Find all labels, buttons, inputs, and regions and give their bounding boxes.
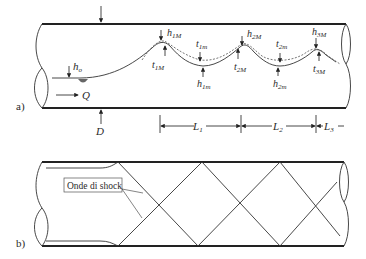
t1m-label: t1m	[196, 38, 207, 51]
dashed-surface-profile	[142, 41, 340, 64]
h2m-label: h2m	[273, 78, 287, 91]
pipe-left-break	[35, 162, 49, 246]
h2M-label: h2M	[247, 28, 263, 41]
free-surface-profile	[52, 42, 336, 78]
L3-label: L3	[323, 120, 334, 134]
panel-b-label: b)	[16, 237, 26, 250]
panel-b: Onde di shock b)	[16, 162, 349, 250]
panel-a: D ho Q a) h1M t1M t1m h1m h2M t2M t2m	[16, 6, 351, 137]
water-shading	[78, 79, 88, 83]
shock-line	[280, 182, 337, 246]
pipe-left-break	[35, 24, 49, 108]
length-dimensions: L1 L2 L3	[160, 115, 344, 134]
panel-a-label: a)	[16, 100, 25, 113]
t2M-label: t2M	[234, 61, 247, 74]
shock-waves	[118, 162, 340, 246]
h1m-label: h1m	[197, 78, 211, 91]
L1-label: L1	[192, 120, 203, 134]
flow-label: Q	[82, 89, 90, 101]
h3M-label: h3M	[312, 26, 328, 39]
h1M-label: h1M	[167, 27, 183, 40]
t2m-label: t2m	[276, 38, 287, 51]
h-o-label: ho	[73, 60, 83, 74]
L2-label: L2	[272, 120, 283, 134]
pipe-right-end	[340, 162, 349, 246]
callout-leader	[122, 189, 142, 218]
shock-label: Onde di shock	[67, 181, 122, 191]
t1M-label: t1M	[152, 59, 165, 72]
t3M-label: t3M	[313, 63, 326, 76]
shock-line	[280, 162, 340, 236]
hydraulic-jump-diagram: D ho Q a) h1M t1M t1m h1m h2M t2M t2m	[0, 0, 366, 259]
pipe-right-end	[342, 24, 351, 108]
callout-leader	[122, 189, 143, 193]
diameter-label: D	[95, 125, 104, 137]
